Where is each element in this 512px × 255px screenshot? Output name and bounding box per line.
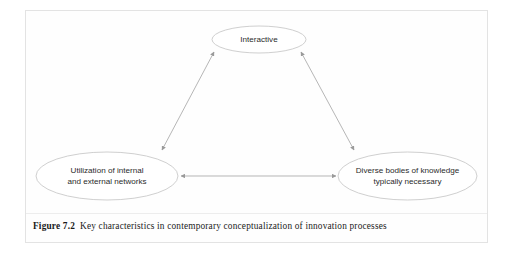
connector-top-to-left: [162, 52, 214, 150]
figure-caption-text: Key characteristics in contemporary conc…: [80, 221, 387, 231]
figure-page: Interactive Utilization of internal and …: [0, 0, 512, 255]
node-utilization-of-networks-label-line-1: Utilization of internal: [71, 166, 144, 175]
figure-caption-number: Figure 7.2: [33, 221, 75, 231]
node-diverse-bodies-of-knowledge: Diverse bodies of knowledge typically ne…: [338, 152, 477, 200]
connector-group: [162, 52, 354, 176]
node-interactive: Interactive: [212, 26, 306, 53]
figure-caption: Figure 7.2 Key characteristics in contem…: [33, 221, 483, 231]
node-interactive-label-line-1: Interactive: [240, 35, 278, 44]
caption-divider: [26, 213, 487, 214]
node-diverse-bodies-of-knowledge-ellipse: [338, 152, 477, 200]
node-utilization-of-networks-label-line-2: and external networks: [67, 177, 146, 186]
node-diverse-bodies-of-knowledge-label-line-1: Diverse bodies of knowledge: [356, 166, 460, 175]
node-diverse-bodies-of-knowledge-label-line-2: typically necessary: [374, 177, 443, 186]
node-utilization-of-networks: Utilization of internal and external net…: [36, 152, 178, 200]
connector-top-to-right: [301, 52, 354, 150]
node-utilization-of-networks-ellipse: [36, 152, 178, 200]
diagram-canvas: Interactive Utilization of internal and …: [0, 0, 512, 255]
